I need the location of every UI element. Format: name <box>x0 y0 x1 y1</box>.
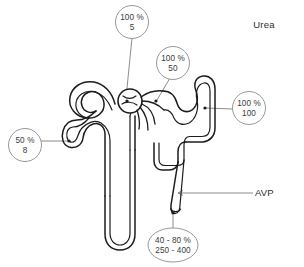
efferent-arteriole-5 <box>137 110 139 129</box>
annotation-bubble-proximal-end[interactable]: 100 % 50 <box>157 47 190 80</box>
bubble-circle-distal-tubule <box>233 92 266 125</box>
marker-loop-descending <box>67 139 70 142</box>
leader-proximal-end <box>157 78 170 100</box>
connecting-tubule-inner <box>184 137 190 161</box>
label-avp: AVP <box>255 187 274 198</box>
annotation-bubble-distal-tubule[interactable]: 100 % 100 <box>233 92 266 125</box>
nephron-urea-diagram: 100 % 5 100 % 50 100 % 100 50 % 8 40 - 8… <box>0 0 304 267</box>
loop-of-henle-inner <box>110 150 130 245</box>
distal-convoluted-tubule-outer <box>163 76 215 142</box>
connecting-tubule-outer <box>178 142 186 162</box>
bubble-percent-glomerulus: 100 % <box>120 13 144 22</box>
bubble-circle-glomerulus <box>116 6 149 39</box>
collecting-duct-branch-inner <box>159 143 184 166</box>
bubble-percent-collecting-duct: 40 - 80 % <box>155 236 191 245</box>
bubble-percent-proximal-end: 100 % <box>161 54 185 63</box>
distal-convoluted-tubule-inner <box>164 83 210 137</box>
bubble-ellipse-collecting-duct <box>148 228 198 262</box>
bubble-circle-loop-descending <box>9 129 42 162</box>
bubble-value-loop-descending: 8 <box>23 146 28 155</box>
glomerulus-bowman-capsule <box>118 89 142 113</box>
bubble-percent-distal-tubule: 100 % <box>237 99 261 108</box>
marker-glomerulus <box>125 99 128 102</box>
bubble-value-collecting-duct: 250 - 400 <box>155 246 191 255</box>
nephron-outline <box>62 76 215 250</box>
annotation-bubble-loop-descending[interactable]: 50 % 8 <box>9 129 42 162</box>
bubble-value-glomerulus: 5 <box>130 23 135 32</box>
marker-collecting-duct <box>171 211 174 214</box>
bubble-circle-proximal-end <box>157 47 190 80</box>
marker-distal-tubule <box>203 106 206 109</box>
leader-lines <box>41 38 253 230</box>
annotation-bubble-collecting-duct[interactable]: 40 - 80 % 250 - 400 <box>148 228 198 262</box>
efferent-arteriole-4 <box>140 107 148 130</box>
arterioles-group <box>137 91 164 130</box>
bubble-value-proximal-end: 50 <box>168 64 178 73</box>
annotation-bubble-glomerulus[interactable]: 100 % 5 <box>116 6 149 39</box>
bubble-percent-loop-descending: 50 % <box>15 136 34 145</box>
marker-proximal-end <box>154 99 157 102</box>
figure-title-urea: Urea <box>253 19 275 30</box>
bubble-value-distal-tubule: 100 <box>242 109 256 118</box>
